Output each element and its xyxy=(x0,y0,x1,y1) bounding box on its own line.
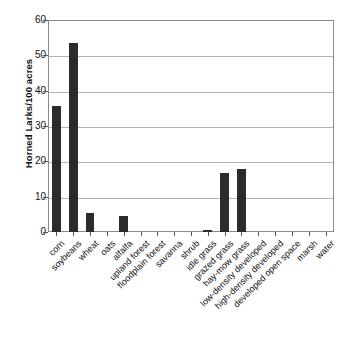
x-tick-mark xyxy=(174,232,175,236)
bar xyxy=(119,216,128,232)
x-tick-mark xyxy=(124,232,125,236)
x-tick-mark xyxy=(73,232,74,236)
y-tick-label: 50 xyxy=(6,50,46,60)
y-tick-label: 60 xyxy=(6,15,46,25)
x-tick-mark xyxy=(326,232,327,236)
x-tick-mark xyxy=(90,232,91,236)
x-tick-mark xyxy=(141,232,142,236)
x-tick-mark xyxy=(191,232,192,236)
x-tick-mark xyxy=(292,232,293,236)
x-tick-mark xyxy=(225,232,226,236)
y-tick-mark xyxy=(43,232,48,233)
y-tick-label: 20 xyxy=(6,156,46,166)
y-tick-label: 40 xyxy=(6,86,46,96)
x-tick-mark xyxy=(56,232,57,236)
bar-chart: Horned Larks/100 acres 0102030405060 cor… xyxy=(0,0,345,341)
y-tick-label: 30 xyxy=(6,121,46,131)
x-tick-mark xyxy=(208,232,209,236)
y-tick-label: 10 xyxy=(6,192,46,202)
bar-series xyxy=(48,20,334,232)
bar xyxy=(237,169,246,232)
x-tick-mark xyxy=(157,232,158,236)
x-tick-label-text: water xyxy=(314,239,336,261)
x-tick-mark xyxy=(107,232,108,236)
x-tick-mark xyxy=(258,232,259,236)
bar xyxy=(69,43,78,232)
bar xyxy=(220,173,229,232)
x-tick-mark xyxy=(241,232,242,236)
x-tick-label: water xyxy=(314,239,336,261)
x-tick-mark xyxy=(275,232,276,236)
y-tick-label: 0 xyxy=(6,227,46,237)
bar xyxy=(86,213,95,232)
x-tick-mark xyxy=(309,232,310,236)
bar xyxy=(52,106,61,232)
